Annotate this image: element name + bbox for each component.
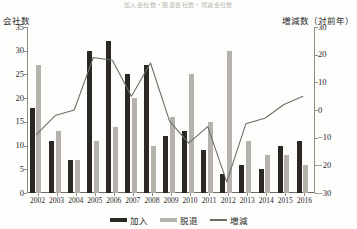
- legend-label: 加入: [130, 214, 148, 226]
- legend-item: 加入: [110, 214, 148, 226]
- y-axis-right-tick-label: 10: [318, 78, 327, 87]
- x-axis-tick-label: 2005: [87, 196, 102, 205]
- delta-line-series: [28, 27, 314, 193]
- plot-area: 05101520253035 −30−20−100102030 20022003…: [28, 27, 314, 193]
- y-axis-right-tick-mark: [315, 110, 318, 111]
- y-axis-right-tick-mark: [315, 55, 318, 56]
- legend-item: 増減: [210, 214, 248, 226]
- x-axis-tick-label: 2004: [68, 196, 83, 205]
- y-axis-left-tick-mark: [24, 98, 27, 99]
- y-axis-right-tick-label: −30: [318, 189, 331, 198]
- x-axis-tick-label: 2016: [297, 196, 312, 205]
- x-axis-tick-label: 2008: [144, 196, 159, 205]
- chart-title-strip: 加入会社数・脱退会社数・増減会社数: [0, 0, 357, 8]
- y-axis-left-tick-label: 20: [16, 94, 25, 103]
- chart-figure: 加入会社数・脱退会社数・増減会社数 会社数 増減数（対前年） 051015202…: [0, 0, 357, 229]
- y-axis-right-tick-mark: [315, 165, 318, 166]
- y-axis-left-tick-label: 25: [16, 70, 25, 79]
- y-axis-left-tick-label: 30: [16, 46, 25, 55]
- x-axis-tick-label: 2012: [221, 196, 236, 205]
- x-axis-tick-label: 2015: [278, 196, 293, 205]
- legend-label: 脱退: [180, 214, 198, 226]
- y-axis-right-tick-label: 20: [318, 50, 327, 59]
- y-axis-left-tick-mark: [24, 51, 27, 52]
- x-axis-tick-label: 2010: [183, 196, 198, 205]
- y-axis-right-tick-label: −20: [318, 161, 331, 170]
- legend-swatch-bar-icon: [160, 218, 177, 222]
- y-axis-left-tick-mark: [24, 74, 27, 75]
- y-axis-left-tick-label: 10: [16, 141, 25, 150]
- x-axis-tick-label: 2009: [163, 196, 178, 205]
- y-axis-left-tick-mark: [24, 27, 27, 28]
- y-axis-right-tick-label: −10: [318, 133, 331, 142]
- y-axis-right-tick-mark: [315, 82, 318, 83]
- y-axis-left-tick-mark: [24, 193, 27, 194]
- x-axis-tick-label: 2007: [125, 196, 140, 205]
- x-axis-tick-label: 2003: [49, 196, 64, 205]
- chart-legend: 加入脱退増減: [0, 214, 357, 226]
- legend-label: 増減: [230, 214, 248, 226]
- legend-swatch-bar-icon: [110, 218, 127, 222]
- legend-swatch-line-icon: [210, 219, 227, 221]
- x-axis-tick-label: 2014: [259, 196, 274, 205]
- y-axis-right-tick-label: 30: [318, 23, 327, 32]
- delta-line-path: [36, 57, 303, 181]
- x-axis-tick-label: 2013: [240, 196, 255, 205]
- y-axis-left-tick-label: 15: [16, 117, 25, 126]
- y-axis-left-tick-mark: [24, 169, 27, 170]
- x-axis-tick-label: 2011: [202, 196, 217, 205]
- x-axis-tick-label: 2002: [30, 196, 45, 205]
- legend-item: 脱退: [160, 214, 198, 226]
- y-axis-right-tick-mark: [315, 138, 318, 139]
- y-axis-left-tick-label: 35: [16, 23, 25, 32]
- y-axis-left-tick-mark: [24, 122, 27, 123]
- y-axis-right-tick-mark: [315, 193, 318, 194]
- y-axis-right-tick-label: 0: [318, 106, 322, 115]
- y-axis-right-tick-mark: [315, 27, 318, 28]
- x-axis-tick-label: 2006: [106, 196, 121, 205]
- y-axis-left-tick-mark: [24, 146, 27, 147]
